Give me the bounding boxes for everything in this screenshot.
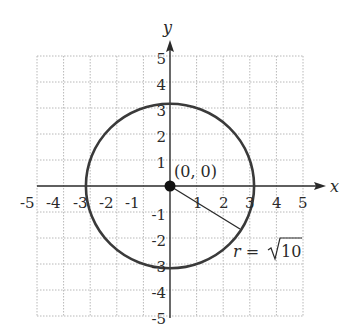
- x-tick: -3: [73, 194, 88, 212]
- y-tick: 2: [156, 128, 166, 146]
- y-tick: -2: [151, 232, 166, 250]
- axes: [37, 46, 322, 318]
- y-tick: 4: [156, 76, 166, 94]
- x-tick: -5: [20, 194, 35, 212]
- x-tick: 2: [219, 194, 229, 212]
- center-point: [165, 181, 176, 192]
- x-tick: -1: [125, 194, 140, 212]
- y-tick: -3: [151, 258, 166, 276]
- y-axis-label: y: [162, 18, 173, 37]
- radius-segment: [170, 186, 240, 229]
- y-tick: 1: [156, 154, 166, 172]
- x-tick: 3: [245, 194, 255, 212]
- radius-label: r = 10: [233, 238, 302, 261]
- y-tick-labels: 5 4 3 2 1 -1 -2 -3 -4 -5: [151, 50, 166, 328]
- x-axis-label: x: [330, 177, 339, 196]
- y-tick: -5: [151, 310, 166, 328]
- radius-radicand: 10: [281, 242, 301, 261]
- y-tick: -4: [151, 284, 166, 302]
- y-tick: -1: [151, 206, 166, 224]
- x-tick: 4: [272, 194, 282, 212]
- center-label: (0, 0): [174, 162, 217, 181]
- coordinate-plane: x y -5 -4 -3 -2 -1 1 2 3 4 5 5 4 3 2 1 -…: [0, 0, 355, 332]
- x-tick: -2: [99, 194, 114, 212]
- x-tick: -4: [46, 194, 61, 212]
- x-tick: 5: [298, 194, 308, 212]
- radius-label-prefix: r =: [233, 242, 259, 261]
- y-tick: 5: [156, 50, 166, 68]
- y-tick: 3: [156, 102, 166, 120]
- x-tick: 1: [193, 194, 203, 212]
